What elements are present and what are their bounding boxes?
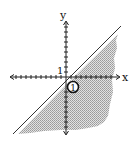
circled-marker-label: 1 (70, 83, 76, 93)
circled-marker: 1 (68, 82, 79, 94)
tick-label-one: 1 (57, 65, 63, 76)
x-axis-label: x (122, 71, 129, 84)
inequality-graph: x y 1 1 (0, 0, 138, 142)
y-axis-label: y (59, 9, 67, 22)
